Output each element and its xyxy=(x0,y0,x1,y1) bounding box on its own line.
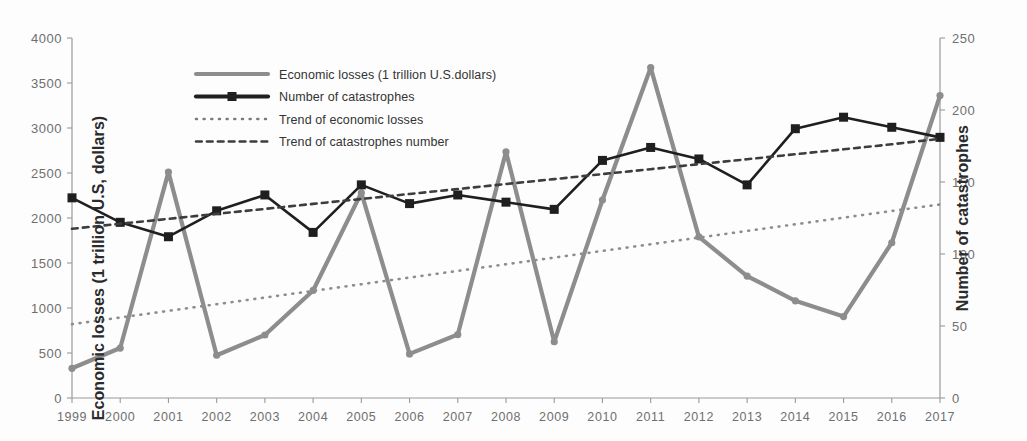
left-axis-tick-label: 2500 xyxy=(31,166,62,181)
data-point-marker xyxy=(117,344,124,351)
left-axis-tick-label: 1500 xyxy=(31,256,62,271)
legend-item-0: Economic losses (1 trillion U.S.dollars) xyxy=(196,68,496,82)
legend-item-label: Number of catastrophes xyxy=(279,90,415,104)
data-point-marker xyxy=(647,64,654,71)
x-axis: 1999200020012002200320042005200620072008… xyxy=(57,398,955,424)
left-axis-tick-label: 4000 xyxy=(31,31,62,46)
legend-item-3: Trend of catastrophes number xyxy=(196,135,449,149)
right-axis-tick-label: 200 xyxy=(952,103,975,118)
plot-area xyxy=(68,64,945,372)
x-axis-tick-label: 2009 xyxy=(539,410,569,424)
chart-legend: Economic losses (1 trillion U.S.dollars)… xyxy=(196,68,496,150)
data-point-marker xyxy=(164,232,173,241)
data-point-marker xyxy=(116,218,125,227)
right-axis-tick-label: 0 xyxy=(952,391,960,406)
x-axis-tick-label: 2001 xyxy=(153,410,183,424)
x-axis-tick-label: 2008 xyxy=(491,410,521,424)
legend-item-1: Number of catastrophes xyxy=(196,90,415,104)
data-point-marker xyxy=(453,190,462,199)
data-point-marker xyxy=(694,154,703,163)
right-axis-title: Number of catastrophes xyxy=(954,125,971,311)
data-point-marker xyxy=(743,180,752,189)
legend-item-label: Trend of economic losses xyxy=(279,113,423,127)
x-axis-tick-label: 2003 xyxy=(250,410,280,424)
legend-item-label: Economic losses (1 trillion U.S.dollars) xyxy=(279,68,496,82)
data-point-marker xyxy=(840,313,847,320)
x-axis-tick-label: 2012 xyxy=(684,410,714,424)
x-axis-tick-label: 2007 xyxy=(443,410,473,424)
data-point-marker xyxy=(454,331,461,338)
data-point-marker xyxy=(357,180,366,189)
x-axis-tick-label: 2010 xyxy=(587,410,617,424)
x-axis-tick-label: 2004 xyxy=(298,410,328,424)
data-point-marker xyxy=(213,352,220,359)
data-point-marker xyxy=(646,143,655,152)
x-axis-tick-label: 1999 xyxy=(57,410,87,424)
left-axis-tick-label: 0 xyxy=(54,391,62,406)
data-point-marker xyxy=(68,365,75,372)
chart-canvas: 05001000150020002500300035004000 0501001… xyxy=(0,0,1027,441)
data-point-marker xyxy=(936,92,943,99)
x-axis-tick-label: 2014 xyxy=(780,410,810,424)
data-point-marker xyxy=(550,205,559,214)
left-axis-title: Economic losses (1 trillion U.S, dollars… xyxy=(90,116,107,421)
x-axis-tick-label: 2015 xyxy=(828,410,858,424)
data-point-marker xyxy=(358,189,365,196)
data-point-marker xyxy=(792,297,799,304)
x-axis-tick-label: 2006 xyxy=(394,410,424,424)
left-axis-tick-label: 2000 xyxy=(31,211,62,226)
x-axis-tick-label: 2011 xyxy=(636,410,665,424)
data-point-marker xyxy=(68,193,77,202)
legend-item-2: Trend of economic losses xyxy=(196,113,423,127)
data-point-marker xyxy=(599,196,606,203)
axis-titles: Economic losses (1 trillion U.S, dollars… xyxy=(90,116,971,421)
left-axis: 05001000150020002500300035004000 xyxy=(31,31,72,406)
left-axis-tick-label: 500 xyxy=(39,346,62,361)
x-axis-tick-label: 2017 xyxy=(925,410,955,424)
x-axis-tick-label: 2016 xyxy=(877,410,907,424)
data-point-marker xyxy=(502,148,509,155)
right-axis-tick-label: 250 xyxy=(952,31,975,46)
data-point-marker xyxy=(888,239,895,246)
x-axis-tick-label: 2002 xyxy=(202,410,232,424)
data-point-marker xyxy=(936,133,945,142)
data-point-marker xyxy=(406,350,413,357)
data-point-marker xyxy=(551,338,558,345)
legend-swatch-marker xyxy=(228,92,237,101)
data-point-marker xyxy=(887,123,896,132)
data-point-marker xyxy=(791,124,800,133)
data-point-marker xyxy=(309,228,318,237)
dual-axis-line-chart: 05001000150020002500300035004000 0501001… xyxy=(0,0,1027,441)
x-axis-tick-label: 2005 xyxy=(346,410,376,424)
data-point-marker xyxy=(839,113,848,122)
right-axis-tick-label: 50 xyxy=(952,319,967,334)
data-point-marker xyxy=(598,156,607,165)
legend-item-label: Trend of catastrophes number xyxy=(279,135,449,149)
left-axis-tick-label: 3000 xyxy=(31,121,62,136)
data-point-marker xyxy=(405,199,414,208)
x-axis-tick-label: 2013 xyxy=(732,410,762,424)
data-point-marker xyxy=(260,190,269,199)
data-point-marker xyxy=(165,169,172,176)
left-axis-tick-label: 3500 xyxy=(31,76,62,91)
data-point-marker xyxy=(261,331,268,338)
data-point-marker xyxy=(744,272,751,279)
series-line-1 xyxy=(72,117,940,237)
data-point-marker xyxy=(502,198,511,207)
left-axis-tick-label: 1000 xyxy=(31,301,62,316)
x-axis-tick-label: 2000 xyxy=(105,410,135,424)
